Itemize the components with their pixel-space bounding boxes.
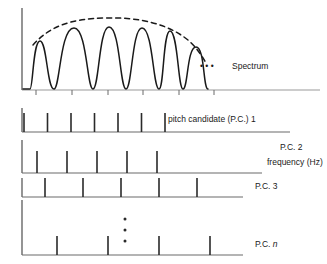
pitch-candidate-figure: • • • Spectrum pitch candidate (P.C.) 1 … — [0, 0, 327, 264]
figure-canvas — [0, 0, 327, 264]
pcn-label-text: P.C. — [255, 239, 273, 249]
spectrum-panel — [22, 8, 320, 95]
frequency-axis-label: frequency (Hz) — [267, 158, 323, 167]
vertical-ellipsis-icon — [124, 218, 127, 243]
pcn-label-index: n — [273, 239, 278, 249]
pitch-candidate-2-panel — [22, 140, 262, 173]
pc3-label: P.C. 3 — [255, 182, 278, 191]
pc1-harmonic-ticks — [24, 113, 165, 132]
pitch-candidate-3-panel — [22, 178, 243, 197]
pc2-harmonic-ticks — [37, 151, 157, 173]
spectrum-axis-ticks — [36, 90, 214, 95]
spectrum-waveform — [23, 27, 208, 89]
pc3-harmonic-ticks — [45, 178, 197, 197]
spectrum-label: Spectrum — [232, 62, 268, 71]
pc2-label: P.C. 2 — [280, 143, 303, 152]
pitch-candidate-n-panel — [22, 200, 243, 255]
pcn-harmonic-ticks — [57, 236, 210, 255]
pc1-label: pitch candidate (P.C.) 1 — [168, 115, 256, 124]
pcn-label: P.C. n — [255, 240, 278, 249]
spectrum-ellipsis-dots: • • • — [200, 62, 214, 71]
